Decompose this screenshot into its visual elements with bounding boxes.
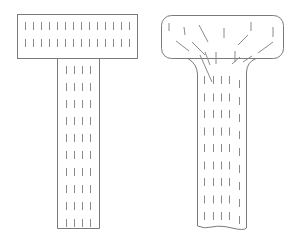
left-stem [58,59,100,229]
right-top-bar [162,16,284,59]
right-stem-right-edge [247,59,257,229]
diagram-canvas [0,0,295,242]
right-stem-left-edge [188,59,198,227]
left-t-shape [18,15,138,229]
right-t-shape [162,16,284,230]
left-top-bar [18,15,138,59]
right-stem-bottom-edge [198,226,247,230]
hatch-dash [200,55,212,82]
